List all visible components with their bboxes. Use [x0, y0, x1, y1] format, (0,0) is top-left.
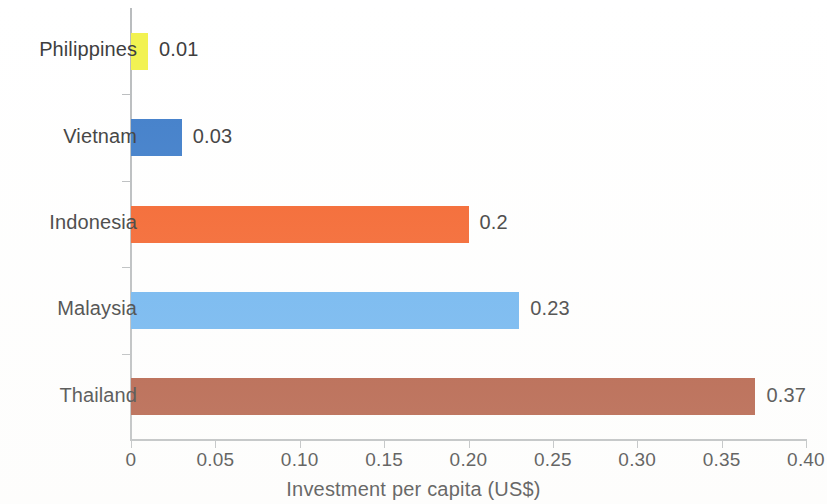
x-tick-label: 0 — [86, 449, 176, 471]
bar-chart: 00.050.100.150.200.250.300.350.40 0.01Ph… — [0, 0, 827, 504]
x-tick-mark — [806, 441, 807, 448]
scan-tint-overlay — [0, 0, 827, 504]
y-tick-mark — [122, 94, 131, 95]
x-tick-label: 0.10 — [255, 449, 345, 471]
bar — [131, 119, 182, 156]
bar-value-label: 0.2 — [480, 211, 508, 234]
bar — [131, 378, 755, 415]
bar-value-label: 0.23 — [530, 297, 570, 320]
bar-value-label: 0.01 — [159, 38, 199, 61]
x-tick-mark — [722, 441, 723, 448]
x-tick-label: 0.40 — [761, 449, 827, 471]
x-tick-mark — [384, 441, 385, 448]
bar-value-label: 0.03 — [193, 125, 233, 148]
x-tick-label: 0.05 — [170, 449, 260, 471]
x-tick-mark — [637, 441, 638, 448]
category-label: Vietnam — [0, 125, 137, 148]
x-axis-title: Investment per capita (US$) — [0, 478, 827, 501]
category-label: Philippines — [0, 38, 137, 61]
y-tick-mark — [122, 354, 131, 355]
x-tick-mark — [131, 441, 132, 448]
category-label: Thailand — [0, 384, 137, 407]
x-tick-mark — [553, 441, 554, 448]
x-tick-label: 0.20 — [424, 449, 514, 471]
y-tick-mark — [122, 267, 131, 268]
y-tick-mark — [122, 181, 131, 182]
x-tick-label: 0.35 — [677, 449, 767, 471]
bar — [131, 292, 519, 329]
x-tick-label: 0.15 — [339, 449, 429, 471]
category-label: Malaysia — [0, 297, 137, 320]
bar-value-label: 0.37 — [766, 384, 806, 407]
x-tick-mark — [215, 441, 216, 448]
x-tick-label: 0.25 — [508, 449, 598, 471]
x-tick-label: 0.30 — [592, 449, 682, 471]
category-label: Indonesia — [0, 211, 137, 234]
x-tick-mark — [469, 441, 470, 448]
bar — [131, 206, 469, 243]
x-tick-mark — [300, 441, 301, 448]
